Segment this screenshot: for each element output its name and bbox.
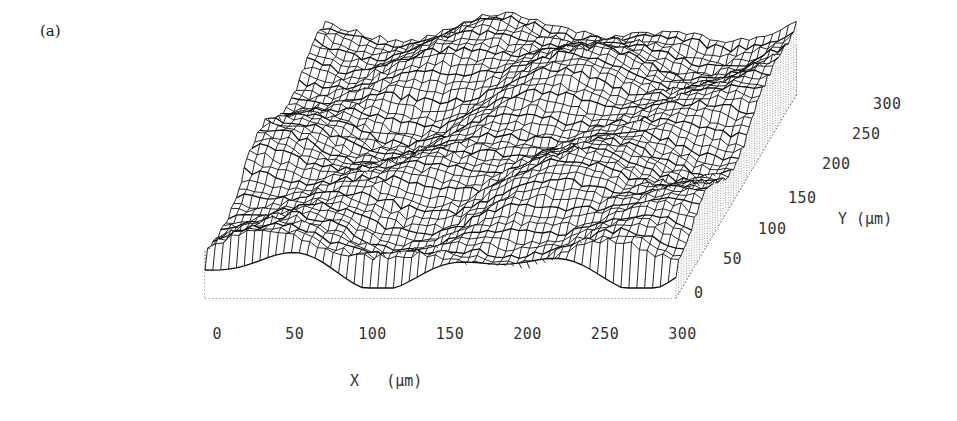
x-axis-label: X: [350, 372, 359, 390]
y-axis-label: Y: [838, 210, 847, 228]
x-tick-label: 200: [513, 325, 542, 343]
y-axis-title: Y (µm): [838, 210, 892, 228]
x-tick-label: 0: [212, 325, 222, 343]
y-tick-label: 250: [852, 125, 881, 143]
y-tick-label: 0: [694, 284, 704, 302]
x-tick-label: 50: [285, 325, 304, 343]
surface-plot: [0, 0, 957, 421]
y-tick-label: 200: [822, 155, 851, 173]
x-tick-label: 100: [358, 325, 387, 343]
x-tick-label: 300: [668, 325, 697, 343]
y-axis-unit: (µm): [856, 210, 892, 228]
x-axis-unit: (µm): [386, 372, 422, 390]
y-tick-label: 300: [873, 95, 902, 113]
wireframe-mesh: [205, 12, 796, 298]
x-tick-label: 250: [591, 325, 620, 343]
y-tick-label: 50: [723, 250, 742, 268]
y-tick-label: 100: [758, 220, 787, 238]
x-tick-label: 150: [436, 325, 465, 343]
x-axis-title: X (µm): [350, 372, 422, 390]
y-tick-label: 150: [788, 189, 817, 207]
